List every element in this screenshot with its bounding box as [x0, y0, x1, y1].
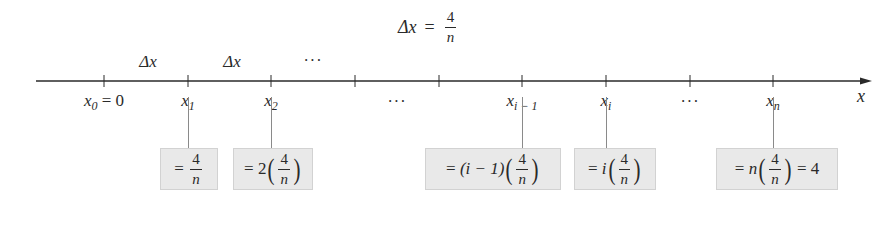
- interval-label-dx-2: Δx: [223, 52, 241, 72]
- value-box-xi-1: = (i − 1) (4n): [425, 148, 561, 190]
- interval-ellipsis: ···: [304, 52, 323, 70]
- tick-label-x0: x0 = 0: [84, 91, 124, 114]
- value-box-x1: = 4n: [160, 148, 218, 190]
- connector-xi-1: [522, 97, 523, 148]
- tick-ellipsis-2: ···: [681, 93, 700, 111]
- value-box-xn: = n (4n) = 4: [716, 148, 838, 190]
- value-box-xi: = i (4n): [574, 148, 656, 190]
- connector-xn: [773, 97, 774, 148]
- interval-label-dx-1: Δx: [139, 52, 157, 72]
- connector-x2: [271, 97, 272, 148]
- connector-x1: [188, 97, 189, 148]
- axis-arrow-icon: [860, 78, 872, 85]
- value-box-x2: = 2 (4n): [233, 148, 313, 190]
- connector-xi: [606, 97, 607, 148]
- tick-ellipsis-1: ···: [388, 93, 407, 111]
- axis-label-x: x: [857, 86, 865, 107]
